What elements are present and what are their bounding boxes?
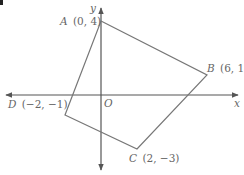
y-axis-label: y — [89, 2, 97, 14]
point-d-label: D (−2, −1) — [7, 98, 68, 110]
x-axis-label: x — [234, 97, 240, 109]
quadrilateral-diagram: y x O A (0, 4) B (6, 1) C (2, −3) D (−2,… — [0, 0, 244, 175]
point-c-label: C (2, −3) — [129, 152, 179, 164]
origin-label: O — [104, 97, 113, 109]
point-a-label: A (0, 4) — [59, 15, 101, 27]
quadrilateral-abcd — [65, 21, 207, 149]
point-b-label: B (6, 1) — [206, 62, 244, 74]
